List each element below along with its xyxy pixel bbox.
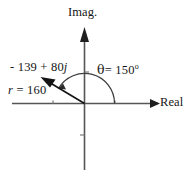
phasor-vector-line [47,81,85,104]
angle-label: θ= 150o [97,64,139,77]
real-axis-arrowhead [150,99,160,108]
point-label: - 139 + 80j [10,61,68,74]
imaginary-axis-arrowhead [80,27,89,42]
imaginary-axis-label: Imag. [68,6,97,19]
point-label-text: - 139 + 80 [10,60,64,74]
theta-symbol: θ [97,62,105,77]
degree-symbol: o [135,62,139,71]
imaginary-unit-symbol: j [64,60,68,74]
magnitude-symbol: r [8,83,13,97]
magnitude-label: r = 160 [8,84,46,97]
complex-plane-phasor-diagram: Imag. Real - 139 + 80j r = 160 θ= 150o [0,0,195,179]
angle-value: = 150 [105,63,135,77]
angle-arc [59,73,115,103]
real-axis-label: Real [160,96,183,109]
magnitude-value: = 160 [16,83,46,97]
